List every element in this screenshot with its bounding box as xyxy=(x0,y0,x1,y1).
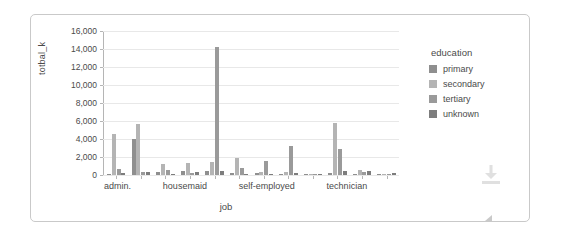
bar[interactable] xyxy=(377,174,381,175)
bar[interactable] xyxy=(132,139,136,175)
bar[interactable] xyxy=(313,174,317,175)
y-tick-label: 2,000 xyxy=(37,153,97,162)
bar[interactable] xyxy=(269,174,273,175)
bar-group xyxy=(202,31,227,175)
bar[interactable] xyxy=(309,174,313,175)
legend-title: education xyxy=(431,47,525,58)
legend-item[interactable]: tertiary xyxy=(429,94,525,104)
bar[interactable] xyxy=(117,169,121,175)
legend-swatch xyxy=(429,80,437,88)
bar[interactable] xyxy=(289,146,293,175)
bar[interactable] xyxy=(186,163,190,175)
bar[interactable] xyxy=(141,172,145,175)
bar[interactable] xyxy=(259,172,263,175)
bar[interactable] xyxy=(343,171,347,175)
bar[interactable] xyxy=(215,47,219,175)
bar[interactable] xyxy=(121,173,125,175)
legend-item[interactable]: primary xyxy=(429,64,525,74)
bar-group xyxy=(129,31,154,175)
bar[interactable] xyxy=(387,174,391,175)
bar-group xyxy=(374,31,399,175)
bar[interactable] xyxy=(318,174,322,175)
legend-swatch xyxy=(429,95,437,103)
plot-area: 02,0004,0006,0008,00010,00012,00014,0001… xyxy=(103,31,399,175)
y-tick-mark xyxy=(100,175,103,176)
bar[interactable] xyxy=(338,149,342,175)
bar-chart: totbal_k 02,0004,0006,0008,00010,00012,0… xyxy=(31,15,531,223)
y-tick-mark xyxy=(100,67,103,68)
bar[interactable] xyxy=(240,168,244,175)
y-tick-mark xyxy=(100,139,103,140)
bar-group xyxy=(153,31,178,175)
bar[interactable] xyxy=(166,170,170,175)
bar[interactable] xyxy=(264,161,268,175)
x-tick-label xyxy=(207,181,223,195)
bar[interactable] xyxy=(333,123,337,175)
bar[interactable] xyxy=(161,164,165,175)
legend-label: primary xyxy=(443,64,473,74)
y-tick-label: 16,000 xyxy=(37,27,97,36)
bar-group xyxy=(178,31,203,175)
bar[interactable] xyxy=(353,174,357,175)
bar[interactable] xyxy=(190,173,194,175)
x-tick-label xyxy=(147,181,163,195)
screenshot-root: totbal_k 02,0004,0006,0008,00010,00012,0… xyxy=(0,0,561,241)
legend-item[interactable]: unknown xyxy=(429,109,525,119)
x-tick-label: technician xyxy=(327,181,368,195)
y-tick-label: 8,000 xyxy=(37,99,97,108)
bar[interactable] xyxy=(362,172,366,175)
bar[interactable] xyxy=(205,171,209,175)
bar[interactable] xyxy=(230,173,234,175)
y-tick-label: 10,000 xyxy=(37,81,97,90)
resize-handle-icon[interactable] xyxy=(483,208,493,216)
bar-group xyxy=(276,31,301,175)
bar[interactable] xyxy=(136,124,140,175)
download-icon[interactable] xyxy=(478,163,504,187)
bar[interactable] xyxy=(279,174,283,175)
bar[interactable] xyxy=(107,174,111,175)
bar[interactable] xyxy=(294,173,298,175)
bar[interactable] xyxy=(392,173,396,175)
legend-swatch xyxy=(429,65,437,73)
bar[interactable] xyxy=(146,172,150,175)
y-tick-label: 14,000 xyxy=(37,45,97,54)
legend-item[interactable]: secondary xyxy=(429,79,525,89)
bar-group xyxy=(325,31,350,175)
y-tick-label: 4,000 xyxy=(37,135,97,144)
x-tick-label: housemaid xyxy=(163,181,207,195)
bar[interactable] xyxy=(235,158,239,175)
bar[interactable] xyxy=(220,171,224,175)
bar[interactable] xyxy=(304,174,308,175)
bar[interactable] xyxy=(181,171,185,175)
legend: education primarysecondarytertiaryunknow… xyxy=(429,47,525,124)
bar-group xyxy=(104,31,129,175)
y-tick-mark xyxy=(100,157,103,158)
bar-group xyxy=(227,31,252,175)
legend-label: secondary xyxy=(443,79,485,89)
bar[interactable] xyxy=(284,172,288,175)
y-tick-label: 0 xyxy=(37,171,97,180)
bar[interactable] xyxy=(255,173,259,175)
x-tick-label: self-employed xyxy=(239,181,295,195)
bar-group xyxy=(251,31,276,175)
y-tick-mark xyxy=(100,31,103,32)
bar[interactable] xyxy=(112,134,116,175)
bar[interactable] xyxy=(328,173,332,175)
x-tick-label xyxy=(383,181,399,195)
bar[interactable] xyxy=(382,174,386,175)
bar[interactable] xyxy=(367,171,371,175)
x-tick-label xyxy=(367,181,383,195)
bar-group xyxy=(350,31,375,175)
x-tick-label xyxy=(295,181,311,195)
legend-label: unknown xyxy=(443,109,479,119)
bar-groups xyxy=(104,31,399,175)
bar[interactable] xyxy=(210,162,214,175)
bar[interactable] xyxy=(156,172,160,175)
bar[interactable] xyxy=(171,174,175,175)
bar[interactable] xyxy=(244,174,248,175)
bar[interactable] xyxy=(195,172,199,175)
y-tick-mark xyxy=(100,85,103,86)
x-tick-label: admin. xyxy=(104,181,131,195)
bar[interactable] xyxy=(358,170,362,175)
legend-swatch xyxy=(429,110,437,118)
